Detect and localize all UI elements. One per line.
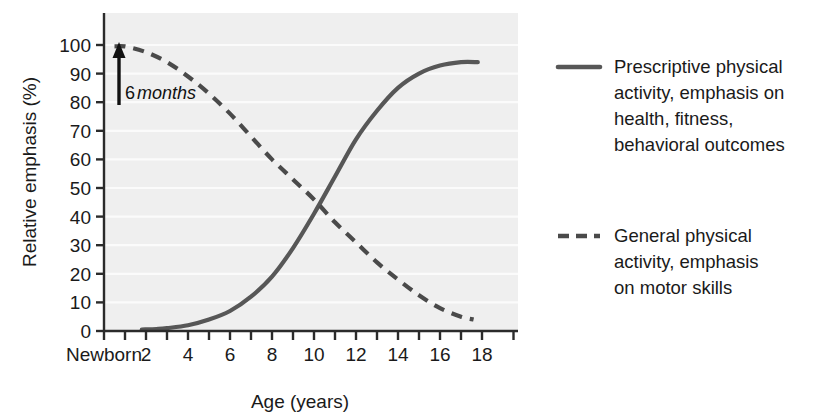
x-tick-label: 10 [303,344,324,365]
legend-label-line: General physical [614,225,752,246]
y-tick-label: 50 [70,178,91,199]
six-months-unit: months [137,83,196,103]
y-tick-label: 70 [70,121,91,142]
legend-label-line: activity, emphasis on [614,82,784,103]
y-tick-label: 40 [70,207,91,228]
x-tick-label: 14 [387,344,409,365]
chart-legend: Prescriptive physicalactivity, emphasis … [558,56,785,298]
x-tick-label: 16 [429,344,450,365]
figure-container: 0102030405060708090100 Newborn2468101214… [0,0,816,418]
x-tick-label: 18 [471,344,492,365]
legend-label-line: behavioral outcomes [614,134,785,155]
x-tick-label: 12 [345,344,366,365]
six-months-number: 6 [125,83,135,103]
y-tick-label: 20 [70,264,91,285]
legend-label-line: health, fitness, [614,108,733,129]
x-tick-label: 2 [141,344,152,365]
y-tick-label: 60 [70,149,91,170]
x-tick-label: 6 [225,344,236,365]
y-tick-label: 10 [70,292,91,313]
y-tick-label: 100 [59,35,91,56]
y-tick-label: 30 [70,235,91,256]
x-tick-label: Newborn [66,344,142,365]
legend-label-line: activity, emphasis [614,251,759,272]
x-axis-title: Age (years) [251,391,349,412]
y-tick-label: 80 [70,92,91,113]
y-axis-title: Relative emphasis (%) [19,77,40,267]
y-tick-label: 90 [70,64,91,85]
chart-svg: 0102030405060708090100 Newborn2468101214… [0,0,816,418]
x-axis-group: Newborn24681012141618 [66,331,514,365]
x-tick-label: 8 [267,344,278,365]
y-tick-label: 0 [80,321,91,342]
y-axis-group: 0102030405060708090100 [59,35,104,342]
legend-label-line: Prescriptive physical [614,56,783,77]
legend-label-line: on motor skills [614,277,732,298]
x-tick-label: 4 [183,344,194,365]
